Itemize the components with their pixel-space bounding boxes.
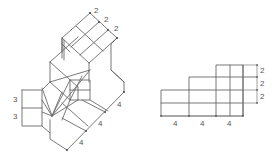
iso-top-dim-3: 2 xyxy=(114,24,119,33)
iso-left-dim-1: 3 xyxy=(13,95,18,104)
iso-bottom-dim-2: 4 xyxy=(98,119,103,128)
ortho-right-dim-2: 2 xyxy=(260,79,265,88)
orthographic-view xyxy=(160,64,258,117)
isometric-view xyxy=(22,12,125,151)
ortho-right-dim-1: 2 xyxy=(260,66,265,75)
iso-top-dim-2: 2 xyxy=(104,15,109,24)
technical-drawing: 2 2 2 3 3 4 4 4 2 2 2 4 4 4 xyxy=(0,0,275,159)
ortho-right-dim-3: 2 xyxy=(260,92,265,101)
ortho-bottom-dim-3: 4 xyxy=(227,119,232,128)
ortho-bottom-dim-1: 4 xyxy=(173,119,178,128)
ortho-bottom-dim-2: 4 xyxy=(200,119,205,128)
iso-bottom-dim-1: 4 xyxy=(79,138,84,147)
iso-bottom-dim-3: 4 xyxy=(117,100,122,109)
iso-top-dim-1: 2 xyxy=(94,6,99,15)
iso-left-dim-2: 3 xyxy=(13,112,18,121)
